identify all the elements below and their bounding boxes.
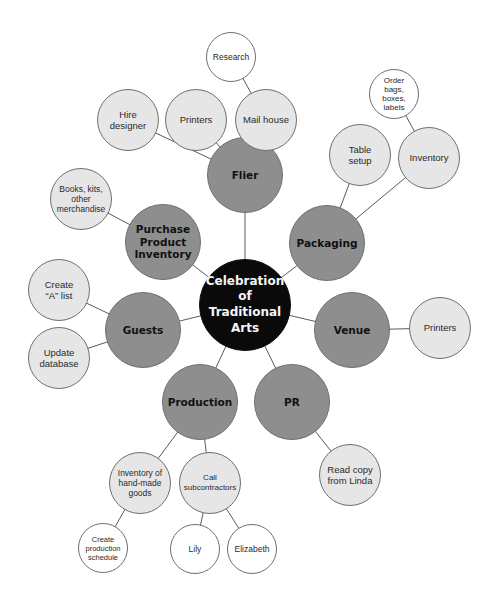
node-books-kits: Books, kits, other merchandise <box>50 168 112 230</box>
inventory-packaging-label: Inventory <box>409 152 448 163</box>
lily-label: Lily <box>189 544 202 554</box>
node-create-production-schedule: Create production schedule <box>78 523 128 573</box>
venue-label: Venue <box>334 324 371 337</box>
node-pr: PR <box>254 364 330 440</box>
create-a-list-label: Create “A” list <box>39 279 79 302</box>
node-create-a-list: Create “A” list <box>28 259 90 321</box>
create-schedule-label: Create production schedule <box>79 535 127 562</box>
node-purchase-product-inventory: Purchase Product Inventory <box>125 204 201 280</box>
node-inventory-packaging: Inventory <box>398 127 460 189</box>
flier-label: Flier <box>232 169 259 182</box>
node-update-database: Update database <box>28 327 90 389</box>
node-research: Research <box>206 32 256 82</box>
node-printers-flier: Printers <box>165 89 227 151</box>
node-production: Production <box>162 364 238 440</box>
order-bags-label: Order bags, boxes, labels <box>378 76 410 113</box>
mail-house-label: Mail house <box>243 114 289 125</box>
table-setup-label: Table setup <box>343 144 377 167</box>
update-database-label: Update database <box>37 347 81 370</box>
node-lily: Lily <box>170 524 220 574</box>
node-guests: Guests <box>105 292 181 368</box>
node-packaging: Packaging <box>289 205 365 281</box>
node-order-bags: Order bags, boxes, labels <box>369 69 419 119</box>
node-mail-house: Mail house <box>235 89 297 151</box>
call-subcontractors-label: Call subcontractors <box>181 473 239 492</box>
printers-flier-label: Printers <box>180 114 213 125</box>
pr-label: PR <box>284 396 300 409</box>
node-printers-venue: Printers <box>409 297 471 359</box>
node-venue: Venue <box>314 292 390 368</box>
node-table-setup: Table setup <box>329 124 391 186</box>
node-hire-designer: Hire designer <box>97 89 159 151</box>
node-elizabeth: Elizabeth <box>227 524 277 574</box>
production-label: Production <box>168 396 233 409</box>
node-read-copy: Read copy from Linda <box>319 444 381 506</box>
read-copy-label: Read copy from Linda <box>323 464 377 487</box>
node-inventory-handmade: Inventory of hand-made goods <box>109 452 171 514</box>
hire-designer-label: Hire designer <box>106 109 150 132</box>
printers-venue-label: Printers <box>424 322 457 333</box>
books-kits-label: Books, kits, other merchandise <box>53 184 109 215</box>
center-label: Celebration of Traditional Arts <box>205 274 285 336</box>
guests-label: Guests <box>123 324 164 337</box>
purchase-label: Purchase Product Inventory <box>132 223 194 261</box>
elizabeth-label: Elizabeth <box>235 544 270 554</box>
packaging-label: Packaging <box>297 237 358 250</box>
inventory-handmade-label: Inventory of hand-made goods <box>111 468 169 499</box>
center-node: Celebration of Traditional Arts <box>199 259 291 351</box>
research-label: Research <box>213 52 249 62</box>
node-call-subcontractors: Call subcontractors <box>179 452 241 514</box>
